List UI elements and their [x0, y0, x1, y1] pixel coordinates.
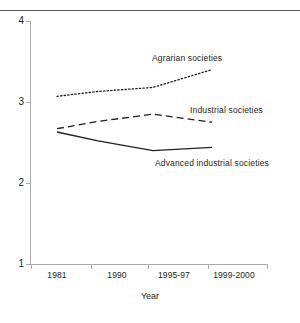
series-line-advanced	[57, 132, 212, 151]
series-label-advanced: Advanced industrial societies	[155, 158, 269, 168]
chart-page: 4 3 2 1 1981 1990 1995-97 1999-2000 Year…	[0, 0, 300, 323]
series-line-industrial	[57, 114, 212, 129]
line-chart: 4 3 2 1 1981 1990 1995-97 1999-2000 Year…	[0, 0, 300, 323]
series-label-industrial: Industrial societies	[190, 105, 263, 115]
series-line-agrarian	[57, 70, 212, 97]
series-label-agrarian: Agrarian societies	[152, 53, 222, 63]
